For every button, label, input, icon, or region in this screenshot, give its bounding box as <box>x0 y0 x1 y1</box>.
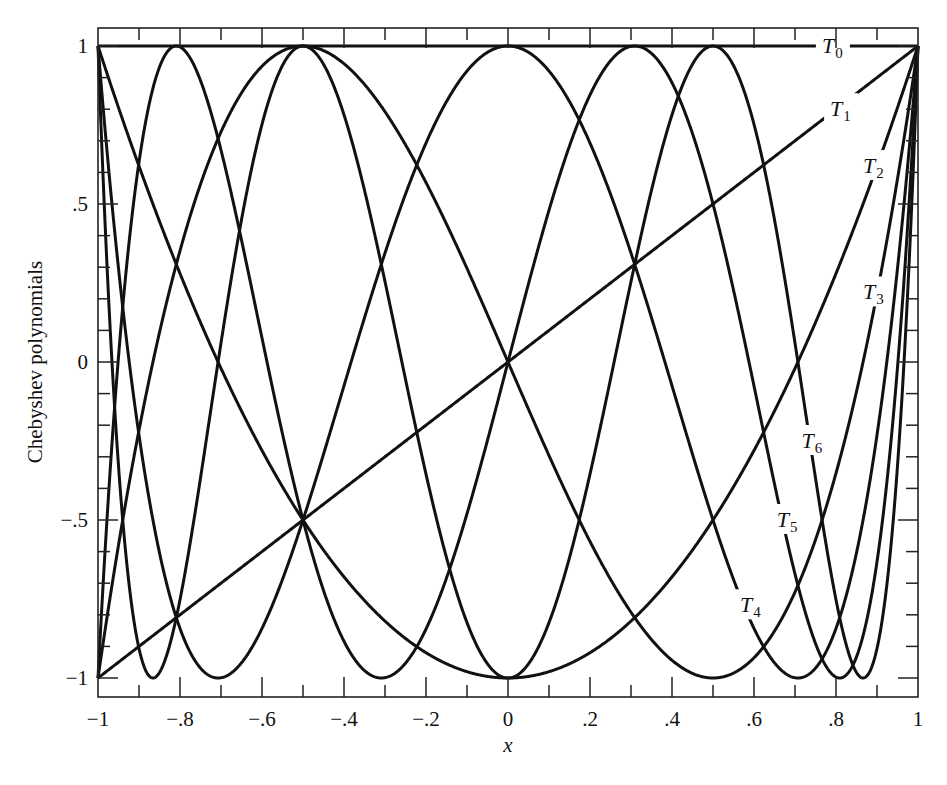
y-axis-title: Chebyshev polynomials <box>23 261 47 463</box>
x-tick-label: −.4 <box>330 707 358 731</box>
x-tick-labels: −1−.8−.6−.4−.20.2.4.6.81 <box>87 707 923 731</box>
y-tick-labels: 1.50−.5−1 <box>60 34 88 690</box>
x-tick-label: −.2 <box>412 707 440 731</box>
y-tick-label: .5 <box>72 192 88 216</box>
x-tick-label: .6 <box>746 707 762 731</box>
y-tick-label: −.5 <box>60 508 88 532</box>
x-axis-title: x <box>502 733 513 757</box>
y-tick-label: −1 <box>66 666 88 690</box>
x-tick-label: 0 <box>503 707 514 731</box>
x-tick-label: .8 <box>828 707 844 731</box>
y-tick-label: 1 <box>78 34 89 58</box>
y-tick-label: 0 <box>78 350 89 374</box>
x-tick-label: .2 <box>582 707 598 731</box>
x-tick-label: −.8 <box>166 707 194 731</box>
label-masks <box>734 30 891 619</box>
chebyshev-chart: −1−.8−.6−.4−.20.2.4.6.81 1.50−.5−1 T0T1T… <box>0 0 947 785</box>
x-tick-label: .4 <box>664 707 680 731</box>
plot-curves <box>98 46 918 678</box>
x-tick-label: −.6 <box>248 707 276 731</box>
x-tick-label: 1 <box>913 707 924 731</box>
x-tick-label: −1 <box>87 707 109 731</box>
